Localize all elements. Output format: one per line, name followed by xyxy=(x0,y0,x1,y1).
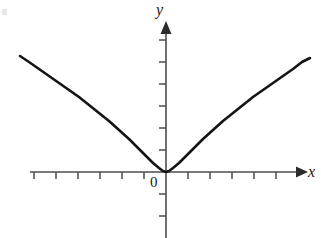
scan-artifact xyxy=(2,9,7,15)
y-axis-label: y xyxy=(156,2,163,18)
x-axis-arrowhead xyxy=(296,167,308,178)
origin-label: 0 xyxy=(150,175,158,190)
y-axis-arrowhead xyxy=(161,21,172,34)
coordinate-plot xyxy=(0,0,321,238)
x-axis-label: x xyxy=(308,164,315,180)
graph-figure: y x 0 xyxy=(0,0,321,238)
function-curve xyxy=(20,56,310,172)
axes-group xyxy=(30,21,308,238)
y-axis-ticks xyxy=(159,40,166,216)
